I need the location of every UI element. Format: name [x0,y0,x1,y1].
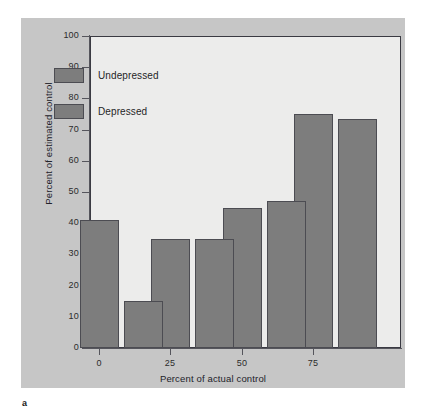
y-axis-title: Percent of estimated control [43,44,54,244]
figure-panel: 0102030405060708090100 Percent of estima… [21,18,405,388]
y-tick [82,161,89,162]
legend-item: Undepressed [54,66,214,84]
y-tick-label: 30 [25,249,79,258]
y-tick-label: 10 [25,312,79,321]
legend-label: Undepressed [98,70,159,81]
y-tick [82,348,89,349]
y-tick-label: 100 [25,31,79,40]
x-axis-title: Percent of actual control [21,373,405,384]
legend-swatch-icon [54,68,84,83]
y-tick [82,192,89,193]
x-tick [99,349,100,355]
bar [80,220,119,348]
bar [338,119,377,348]
x-tick-label: 0 [79,358,119,368]
bar [267,201,306,348]
x-tick-label: 25 [150,358,190,368]
y-tick [82,36,89,37]
x-tick [313,349,314,355]
y-tick-label: 0 [25,343,79,352]
panel-letter: a [22,398,27,408]
bar [195,239,234,348]
x-tick [170,349,171,355]
x-tick [242,349,243,355]
x-axis-line [89,348,402,349]
legend-swatch-icon [54,104,84,119]
x-tick-label: 50 [222,358,262,368]
legend-item: Depressed [54,102,214,120]
legend-label: Depressed [98,106,147,117]
x-tick-label: 75 [293,358,333,368]
chart-legend: UndepressedDepressed [54,66,214,138]
y-tick-label: 20 [25,281,79,290]
bar [124,301,163,348]
